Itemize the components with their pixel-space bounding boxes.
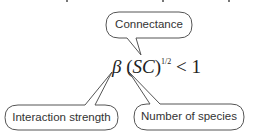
cropped-text-fragments <box>66 0 230 2</box>
sc-term: SC <box>133 56 155 77</box>
exponent-half: 1/2 <box>161 57 171 66</box>
connectance-label: Connectance <box>106 19 192 31</box>
diagram-canvas: Connectance Interaction strength Number … <box>0 0 253 137</box>
open-paren: ( <box>121 56 132 77</box>
inequality-rhs: < 1 <box>171 56 201 77</box>
stability-criterion-formula: β (SC)1/2 < 1 <box>112 57 201 76</box>
number-of-species-label: Number of species <box>134 111 244 123</box>
interaction-strength-label: Interaction strength <box>5 112 118 124</box>
